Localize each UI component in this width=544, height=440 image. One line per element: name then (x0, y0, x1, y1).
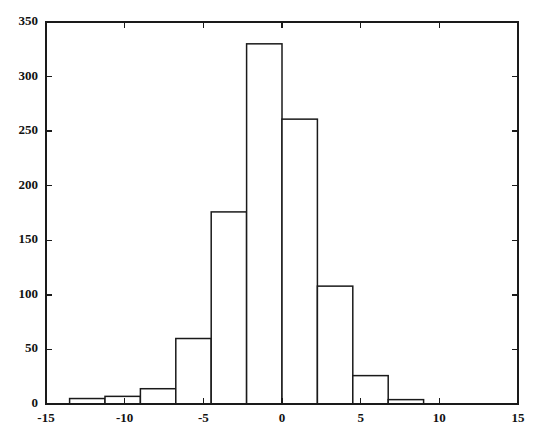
y-tick-label: 300 (19, 68, 39, 83)
histogram-bar (140, 389, 175, 404)
y-tick-labels-group: 050100150200250300350 (19, 13, 39, 410)
x-tick-label: -5 (198, 410, 209, 425)
histogram-bar (211, 212, 246, 404)
histogram-bar (317, 286, 352, 404)
histogram-bar (247, 44, 282, 404)
y-tick-label: 100 (19, 286, 39, 301)
y-tick-label: 350 (19, 13, 39, 28)
histogram-bar (282, 119, 317, 404)
x-tick-label: 5 (357, 410, 364, 425)
histogram-plot: 050100150200250300350 -15-10-5051015 (0, 0, 544, 440)
histogram-figure: 050100150200250300350 -15-10-5051015 (0, 0, 544, 440)
histogram-bar (70, 399, 105, 404)
y-tick-label: 150 (19, 231, 39, 246)
histogram-bar (105, 396, 140, 404)
x-tick-labels-group: -15-10-5051015 (37, 410, 525, 425)
bars-group (70, 44, 424, 404)
y-tick-label: 0 (32, 395, 39, 410)
x-tick-label: 10 (433, 410, 446, 425)
histogram-bar (176, 339, 211, 404)
x-tick-label: 0 (279, 410, 286, 425)
x-tick-label: -15 (37, 410, 55, 425)
x-tick-label: -10 (116, 410, 133, 425)
y-tick-label: 50 (25, 340, 38, 355)
y-tick-label: 250 (19, 122, 39, 137)
histogram-bar (353, 376, 388, 404)
y-tick-label: 200 (19, 177, 39, 192)
x-tick-label: 15 (512, 410, 526, 425)
